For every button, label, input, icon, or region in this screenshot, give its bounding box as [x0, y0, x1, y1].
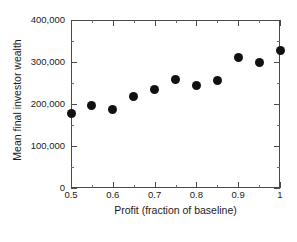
data-point: [192, 81, 201, 90]
y-axis-tick: [71, 62, 77, 63]
data-point: [234, 53, 243, 62]
y-axis-tick-label: 200,000: [31, 99, 65, 109]
plot-area: [71, 20, 280, 188]
y-axis-tick: [71, 104, 77, 105]
y-axis-minor-tick: [277, 41, 280, 42]
y-axis-minor-tick: [71, 167, 74, 168]
y-axis-tick: [274, 104, 280, 105]
y-axis-tick-label: 300,000: [31, 57, 65, 67]
y-axis-tick: [274, 146, 280, 147]
x-axis-tick-label: 0.5: [54, 190, 88, 200]
x-axis-minor-tick: [176, 185, 177, 188]
y-axis-tick: [274, 62, 280, 63]
x-axis-tick: [71, 182, 72, 188]
data-point: [108, 105, 117, 114]
x-axis-tick: [113, 182, 114, 188]
x-axis-tick-label: 0.8: [179, 190, 213, 200]
x-axis-tick: [238, 20, 239, 26]
data-point: [67, 109, 76, 118]
y-axis-tick-label: 400,000: [31, 15, 65, 25]
x-axis-tick: [113, 20, 114, 26]
y-axis-minor-tick: [277, 83, 280, 84]
x-axis-tick-label: 1: [263, 190, 297, 200]
x-axis-minor-tick: [134, 185, 135, 188]
y-axis-minor-tick: [277, 125, 280, 126]
x-axis-tick-label: 0.9: [221, 190, 255, 200]
y-axis-minor-tick: [71, 83, 74, 84]
x-axis-tick: [280, 20, 281, 26]
x-axis-minor-tick: [217, 20, 218, 23]
x-axis-minor-tick: [176, 20, 177, 23]
scatter-chart-figure: 0100,000200,000300,000400,0000.50.60.70.…: [0, 0, 297, 242]
x-axis-minor-tick: [92, 20, 93, 23]
y-axis-minor-tick: [71, 125, 74, 126]
x-axis-minor-tick: [259, 185, 260, 188]
x-axis-tick: [238, 182, 239, 188]
y-axis-minor-tick: [277, 167, 280, 168]
x-axis-minor-tick: [134, 20, 135, 23]
x-axis-tick: [155, 182, 156, 188]
y-axis-minor-tick: [71, 41, 74, 42]
x-axis-tick-label: 0.6: [96, 190, 130, 200]
data-point: [255, 58, 264, 67]
y-axis-label: Mean final investor wealth: [11, 16, 23, 184]
x-axis-tick: [71, 20, 72, 26]
x-axis-tick: [196, 20, 197, 26]
x-axis-tick: [155, 20, 156, 26]
data-point: [276, 46, 285, 55]
x-axis-tick: [196, 182, 197, 188]
x-axis-minor-tick: [217, 185, 218, 188]
x-axis-tick: [280, 182, 281, 188]
data-point: [213, 76, 222, 85]
x-axis-tick-label: 0.7: [138, 190, 172, 200]
y-axis-tick-label: 100,000: [31, 141, 65, 151]
x-axis-minor-tick: [92, 185, 93, 188]
x-axis-minor-tick: [259, 20, 260, 23]
x-axis-label: Profit (fraction of baseline): [71, 204, 280, 216]
y-axis-tick: [71, 146, 77, 147]
